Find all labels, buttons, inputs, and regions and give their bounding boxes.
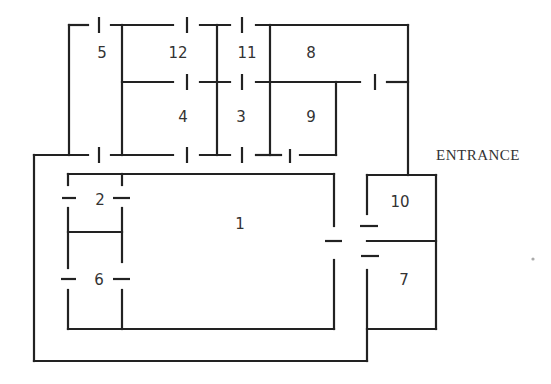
room-label-6: 6 (94, 271, 104, 289)
room-label-11: 11 (237, 44, 256, 62)
room-label-4: 4 (178, 108, 188, 126)
room-label-2: 2 (95, 191, 105, 209)
room-label-12: 12 (168, 44, 187, 62)
room-label-3: 3 (236, 108, 246, 126)
room-labels: 1 2 3 4 5 6 7 8 9 10 11 12 (94, 44, 409, 289)
floor-plan: 1 2 3 4 5 6 7 8 9 10 11 12 ENTRANCE (0, 0, 551, 384)
room-label-1: 1 (235, 215, 245, 233)
room-label-8: 8 (306, 44, 316, 62)
entrance-label: ENTRANCE (436, 147, 520, 163)
room-label-10: 10 (390, 193, 409, 211)
room-label-7: 7 (399, 271, 409, 289)
speck-mark (531, 257, 534, 260)
room-label-9: 9 (306, 108, 316, 126)
upper-wing-walls (34, 17, 408, 175)
room-label-5: 5 (97, 44, 107, 62)
